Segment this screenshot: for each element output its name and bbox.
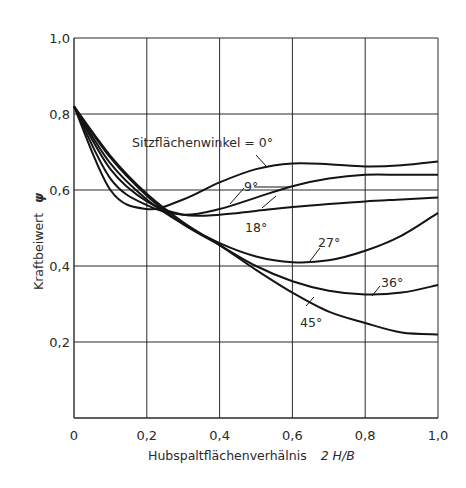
x-tick-label: 0 [70, 428, 78, 443]
x-tick-label: 0,8 [355, 428, 376, 443]
x-axis-label-expr: 2 H/B [321, 448, 355, 463]
axis-ticks: 00,20,40,60,81,00,20,40,60,81,0 [49, 31, 448, 443]
y-axis-label: Kraftbeiwert ψ [31, 193, 46, 290]
force-coefficient-chart: 00,20,40,60,81,00,20,40,60,81,0 Sitzfläc… [0, 0, 466, 488]
legend-annotation-0deg: Sitzflächenwinkel = 0° [132, 135, 273, 150]
x-axis-label-main: Hubspaltflächenverhälnis [148, 448, 307, 463]
x-tick-label: 0,2 [136, 428, 157, 443]
y-tick-label: 1,0 [49, 31, 70, 46]
curve-18deg [74, 106, 438, 215]
y-axis-label-symbol: ψ [31, 193, 46, 203]
y-tick-label: 0,2 [49, 335, 70, 350]
y-tick-label: 0,4 [49, 259, 70, 274]
annotation-9deg: 9° [244, 179, 258, 194]
y-tick-label: 0,6 [49, 183, 70, 198]
y-tick-label: 0,8 [49, 107, 70, 122]
x-axis-label: Hubspaltflächenverhälnis 2 H/B [148, 448, 355, 463]
y-axis-label-main: Kraftbeiwert [31, 213, 46, 290]
curve-9deg [74, 106, 438, 214]
x-tick-label: 1,0 [428, 428, 449, 443]
annotation-36deg: 36° [381, 275, 403, 290]
x-tick-label: 0,6 [282, 428, 303, 443]
annotation-18deg: 18° [245, 220, 267, 235]
annotation-45deg: 45° [300, 315, 322, 330]
x-tick-label: 0,4 [209, 428, 230, 443]
annotation-27deg: 27° [318, 235, 340, 250]
